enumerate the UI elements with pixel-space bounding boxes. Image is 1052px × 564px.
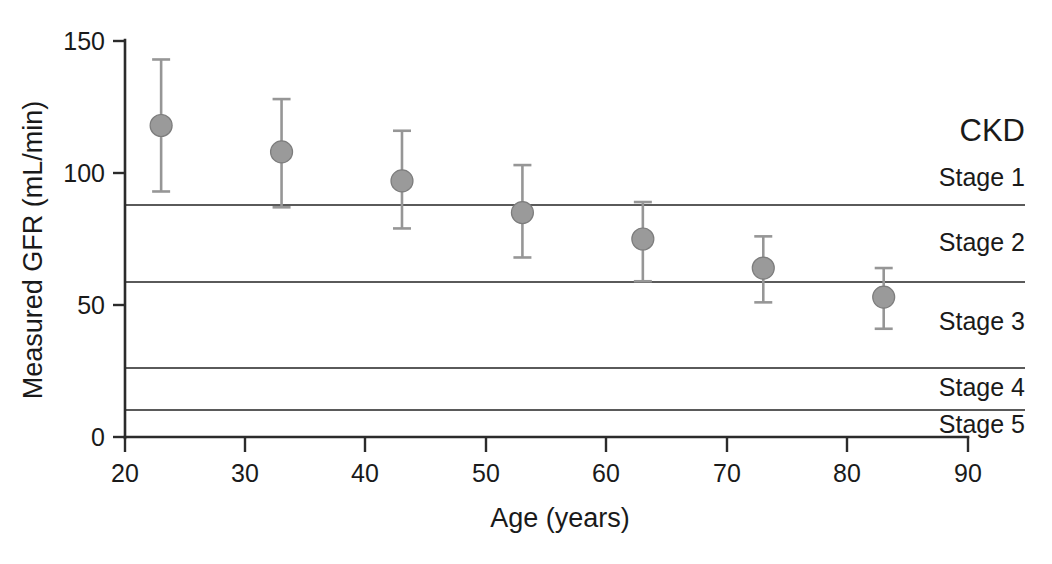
y-tick-label-150: 150 [63, 27, 105, 55]
x-axis-title: Age (years) [490, 503, 630, 533]
x-tick-label-30: 30 [231, 459, 259, 487]
stage-label-5: Stage 5 [939, 410, 1025, 438]
x-tick-label-20: 20 [111, 459, 139, 487]
data-point-group [511, 165, 533, 257]
ckd-stage-annotations: CKD Stage 1 Stage 2 Stage 3 Stage 4 Stag… [939, 113, 1025, 438]
stage-label-4: Stage 4 [939, 373, 1025, 401]
data-point-group [752, 236, 774, 302]
y-axis: 150 100 50 0 Measured GFR (mL/min) [18, 27, 125, 451]
x-tick-label-90: 90 [954, 459, 982, 487]
stage-label-3: Stage 3 [939, 307, 1025, 335]
data-point-marker [271, 141, 293, 163]
x-tick-label-70: 70 [713, 459, 741, 487]
data-point-marker [632, 228, 654, 250]
gfr-vs-age-scatter-chart: 150 100 50 0 Measured GFR (mL/min) 20 30… [0, 0, 1052, 564]
x-axis: 20 30 40 50 60 70 80 90 Age (years) [111, 437, 982, 533]
x-tick-label-80: 80 [833, 459, 861, 487]
y-axis-title: Measured GFR (mL/min) [18, 101, 48, 400]
data-point-marker [752, 257, 774, 279]
chart-figure: 150 100 50 0 Measured GFR (mL/min) 20 30… [0, 0, 1052, 564]
y-tick-label-50: 50 [77, 291, 105, 319]
stage-label-2: Stage 2 [939, 228, 1025, 256]
data-point-marker [873, 286, 895, 308]
data-point-group [873, 268, 895, 329]
y-tick-label-100: 100 [63, 159, 105, 187]
data-point-marker [391, 170, 413, 192]
data-point-group [391, 131, 413, 229]
data-points-layer [150, 59, 895, 328]
x-tick-label-40: 40 [351, 459, 379, 487]
data-point-group [632, 202, 654, 281]
data-point-group [271, 99, 293, 207]
data-point-marker [511, 202, 533, 224]
data-point-marker [150, 114, 172, 136]
data-point-group [150, 59, 172, 191]
stage-label-1: Stage 1 [939, 163, 1025, 191]
y-tick-label-0: 0 [91, 423, 105, 451]
x-tick-label-50: 50 [472, 459, 500, 487]
x-tick-label-60: 60 [592, 459, 620, 487]
ckd-group-title: CKD [960, 113, 1025, 148]
stage-threshold-lines [125, 205, 1025, 410]
